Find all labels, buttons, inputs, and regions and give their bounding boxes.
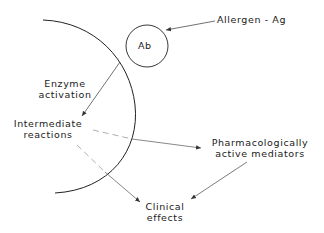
clinical-effects-line2: effects (140, 212, 190, 223)
clinical-effects-label: Clinical effects (140, 201, 190, 223)
enzyme-activation-label: Enzyme activation (33, 78, 97, 100)
intermediate-reactions-line1: Intermediate (10, 118, 86, 129)
intermediate-to-mediators-arrow (132, 139, 201, 148)
mediators-to-clinical-arrow (191, 162, 247, 199)
enzyme-activation-line2: activation (33, 89, 97, 100)
mediators-line1: Pharmacologically (206, 137, 314, 148)
intermediate-to-clinical-arrow (105, 172, 140, 202)
allergen-arrow (166, 21, 215, 30)
intermediate-to-clinical-dashed (77, 145, 105, 172)
intermediate-to-mediators-dashed (93, 130, 132, 139)
clinical-effects-line1: Clinical (140, 201, 190, 212)
pharmacologically-active-mediators-label: Pharmacologically active mediators (206, 137, 314, 159)
antibody-label: Ab (138, 40, 152, 51)
enzyme-activation-line1: Enzyme (33, 78, 97, 89)
mediators-line2: active mediators (206, 148, 314, 159)
intermediate-reactions-line2: reactions (10, 129, 86, 140)
allergen-label: Allergen - Ag (217, 14, 286, 25)
cell-membrane-arc (43, 20, 136, 193)
intermediate-reactions-label: Intermediate reactions (10, 118, 86, 140)
diagram-canvas (0, 0, 324, 233)
